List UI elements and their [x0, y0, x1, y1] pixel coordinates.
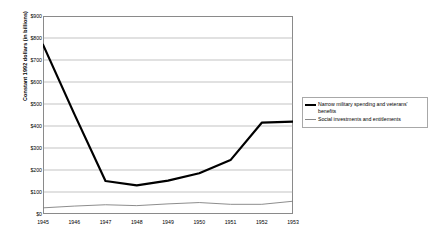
legend-item-label: Narrow military spending and veterans' b…	[318, 101, 424, 114]
chart-figure: Constant 1992 dollars (in billions) $900…	[0, 0, 433, 240]
x-axis-tick-labels: 194519461947194819491950195119521953	[0, 219, 433, 231]
chart-legend: Narrow military spending and veterans' b…	[302, 97, 428, 128]
legend-item-label: Social investments and entitlements	[318, 116, 424, 123]
y-axis-tick: $700	[30, 57, 42, 63]
x-axis-tick: 1952	[256, 219, 268, 225]
y-axis-tick: $200	[30, 167, 42, 173]
y-axis-tick: $600	[30, 79, 42, 85]
x-axis-tick: 1951	[225, 219, 237, 225]
legend-swatch-line-icon	[305, 104, 316, 106]
legend-swatch-line-icon	[305, 119, 316, 120]
x-axis-tick: 1949	[162, 219, 174, 225]
x-axis-tick: 1945	[37, 219, 49, 225]
x-axis-tick: 1950	[193, 219, 205, 225]
y-axis-tick: $800	[30, 35, 42, 41]
legend-item: Social investments and entitlements	[305, 116, 424, 123]
y-axis-tick: $400	[30, 123, 42, 129]
y-axis-tick: $100	[30, 189, 42, 195]
y-axis-tick: $900	[30, 13, 42, 19]
data-series-line	[43, 201, 293, 208]
y-axis-tick: $300	[30, 145, 42, 151]
data-series-line	[43, 45, 293, 186]
x-axis-tick: 1948	[131, 219, 143, 225]
y-axis-tick: $500	[30, 101, 42, 107]
plot-lines	[43, 16, 293, 214]
legend-item: Narrow military spending and veterans' b…	[305, 101, 424, 114]
x-axis-tick: 1947	[100, 219, 112, 225]
x-axis-tick: 1953	[287, 219, 299, 225]
y-axis-tick: $0	[36, 211, 42, 217]
y-axis-tick-labels: $900$800$700$600$500$400$300$200$100$0	[18, 0, 42, 240]
x-axis-tick: 1946	[68, 219, 80, 225]
